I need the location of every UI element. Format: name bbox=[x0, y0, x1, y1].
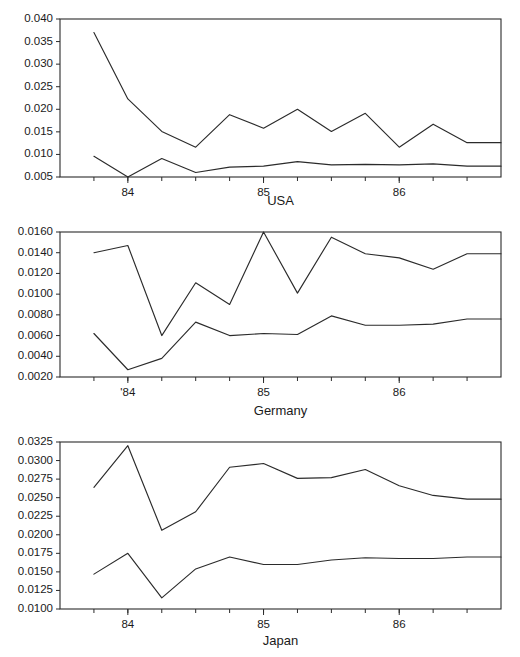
germany-ytick-label: 0.0120 bbox=[18, 266, 53, 278]
japan-ytick-label: 0.0225 bbox=[18, 509, 53, 521]
japan-ytick-label: 0.0250 bbox=[18, 491, 53, 503]
usa-ytick-label: 0.015 bbox=[24, 125, 53, 137]
germany-ytick-label: 0.0080 bbox=[18, 308, 53, 320]
germany-xtick-label: 85 bbox=[257, 386, 270, 398]
usa-ytick-label: 0.010 bbox=[24, 147, 53, 159]
usa-ytick-label: 0.020 bbox=[24, 102, 53, 114]
japan-plot-area: 0.03250.03000.02750.02500.02250.02000.01… bbox=[0, 427, 520, 657]
usa-ytick-label: 0.035 bbox=[24, 35, 53, 47]
chart-panel-japan: 0.03250.03000.02750.02500.02250.02000.01… bbox=[0, 427, 520, 657]
germany-ytick-label: 0.0060 bbox=[18, 329, 53, 341]
japan-xtick-label: 86 bbox=[393, 618, 406, 630]
japan-ytick-label: 0.0200 bbox=[18, 528, 53, 540]
germany-xtick-label: '84 bbox=[120, 386, 136, 398]
japan-xtick-label: 85 bbox=[257, 618, 270, 630]
multi-panel-line-chart-figure: 0.0400.0350.0300.0250.0200.0150.0100.005… bbox=[0, 0, 520, 657]
germany-ytick-label: 0.0160 bbox=[18, 225, 53, 237]
japan-ytick-label: 0.0150 bbox=[18, 565, 53, 577]
usa-panel-caption: USA bbox=[267, 193, 294, 208]
germany-panel-caption: Germany bbox=[254, 403, 308, 418]
japan-ytick-label: 0.0325 bbox=[18, 435, 53, 447]
japan-ytick-label: 0.0100 bbox=[18, 602, 53, 614]
usa-ytick-label: 0.040 bbox=[24, 12, 53, 24]
germany-xtick-label: 86 bbox=[393, 386, 406, 398]
germany-ytick-label: 0.0040 bbox=[18, 349, 53, 361]
germany-ytick-label: 0.0020 bbox=[18, 370, 53, 382]
germany-series-lower bbox=[94, 316, 501, 370]
chart-panel-usa: 0.0400.0350.0300.0250.0200.0150.0100.005… bbox=[0, 0, 520, 215]
germany-ytick-label: 0.0100 bbox=[18, 287, 53, 299]
usa-series-lower bbox=[94, 156, 501, 177]
germany-series-upper bbox=[94, 232, 501, 336]
usa-ytick-label: 0.005 bbox=[24, 170, 53, 182]
japan-ytick-label: 0.0300 bbox=[18, 454, 53, 466]
japan-ytick-label: 0.0275 bbox=[18, 472, 53, 484]
chart-panel-germany: 0.01600.01400.01200.01000.00800.00600.00… bbox=[0, 215, 520, 427]
usa-xtick-label: 86 bbox=[393, 186, 406, 198]
usa-plot-area: 0.0400.0350.0300.0250.0200.0150.0100.005… bbox=[0, 0, 520, 215]
japan-xtick-label: 84 bbox=[121, 618, 134, 630]
japan-ytick-label: 0.0175 bbox=[18, 546, 53, 558]
germany-plot-area: 0.01600.01400.01200.01000.00800.00600.00… bbox=[0, 215, 520, 427]
japan-ytick-label: 0.0125 bbox=[18, 583, 53, 595]
japan-series-upper bbox=[94, 446, 501, 531]
japan-series-lower bbox=[94, 553, 501, 598]
germany-ytick-label: 0.0140 bbox=[18, 246, 53, 258]
usa-ytick-label: 0.025 bbox=[24, 80, 53, 92]
usa-xtick-label: 84 bbox=[121, 186, 134, 198]
usa-ytick-label: 0.030 bbox=[24, 57, 53, 69]
usa-series-upper bbox=[94, 33, 501, 148]
japan-panel-caption: Japan bbox=[263, 633, 298, 648]
